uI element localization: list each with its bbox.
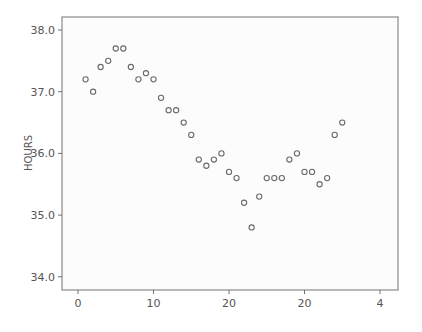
x-tick-label: 20 <box>298 297 312 310</box>
y-tick-label: 38.0 <box>31 24 56 37</box>
x-tick-label: 20 <box>222 297 236 310</box>
y-tick-label: 37.0 <box>31 86 56 99</box>
y-tick-label: 36.0 <box>31 147 56 160</box>
plot-area <box>62 17 398 290</box>
y-axis: 34.035.036.037.038.0 <box>31 24 63 284</box>
chart-canvas: 34.035.036.037.038.0 01020204 HOURS <box>0 0 422 332</box>
x-tick-label: 0 <box>75 297 82 310</box>
x-tick-label: 4 <box>377 297 384 310</box>
x-tick-label: 10 <box>147 297 161 310</box>
y-tick-label: 35.0 <box>31 209 56 222</box>
y-tick-label: 34.0 <box>31 271 56 284</box>
y-axis-label: HOURS <box>23 135 34 171</box>
x-axis: 01020204 <box>75 290 384 310</box>
scatter-chart: 34.035.036.037.038.0 01020204 HOURS <box>0 0 422 332</box>
